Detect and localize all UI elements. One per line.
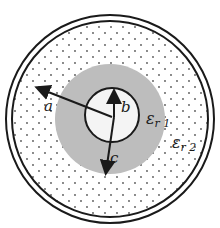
label-c: c bbox=[110, 149, 119, 167]
label-b: b bbox=[121, 98, 131, 116]
coax-diagram: a b c εr 1 εr 2 bbox=[0, 0, 220, 228]
label-a: a bbox=[44, 97, 53, 115]
